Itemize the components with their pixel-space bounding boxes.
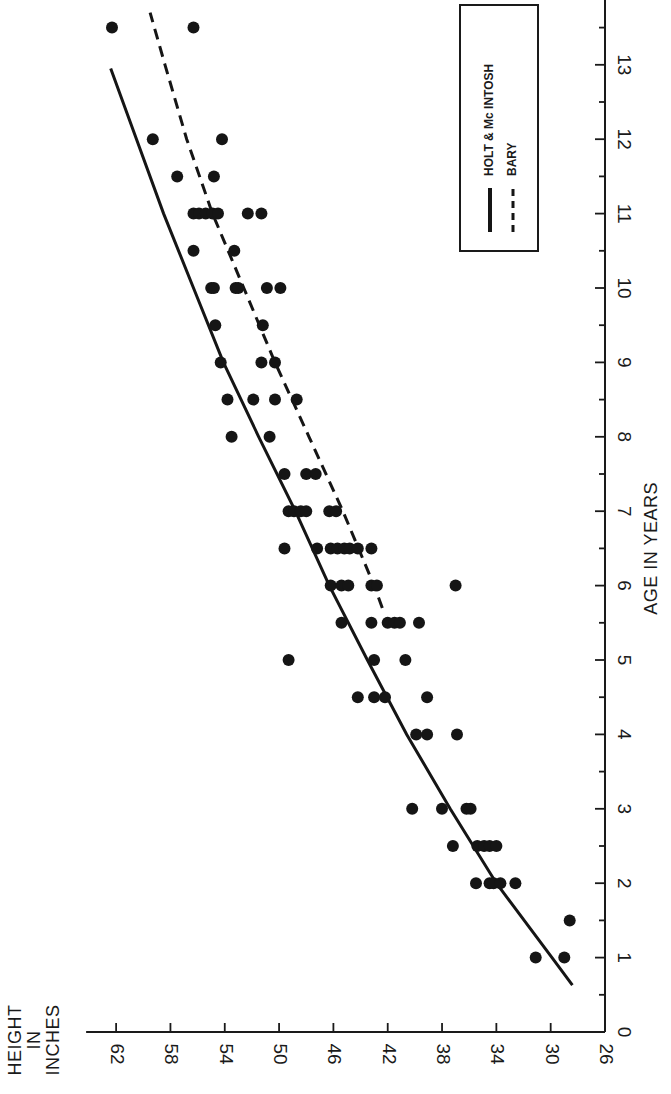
data-point (352, 691, 364, 703)
data-point (342, 580, 354, 592)
data-point (171, 170, 183, 182)
data-point (450, 580, 462, 592)
legend-box (460, 5, 538, 251)
data-point (465, 803, 477, 815)
age-tick-label: 9 (614, 357, 635, 368)
age-tick-label: 10 (614, 277, 635, 298)
data-point (209, 319, 221, 331)
data-point (494, 877, 506, 889)
data-point (365, 542, 377, 554)
age-axis-title: AGE IN YEARS (641, 482, 661, 615)
data-point (352, 542, 364, 554)
height-axis-title: IN (24, 1031, 44, 1050)
growth-chart: 01234567891011121326303438424650545862 H… (0, 0, 671, 1094)
data-point (274, 282, 286, 294)
data-point (530, 952, 542, 964)
data-point (336, 617, 348, 629)
bary-line (150, 13, 382, 608)
height-tick-label: 42 (379, 1043, 400, 1064)
data-point (300, 505, 312, 517)
legend-label: BARY (505, 142, 519, 176)
age-tick-label: 6 (614, 580, 635, 591)
data-point (291, 394, 303, 406)
data-point (208, 170, 220, 182)
data-point (255, 208, 267, 220)
data-point (255, 356, 267, 368)
age-tick-label: 11 (614, 204, 635, 224)
data-point (283, 654, 295, 666)
data-point (371, 580, 383, 592)
data-point (208, 282, 220, 294)
height-tick-label: 58 (161, 1043, 182, 1064)
data-point (368, 691, 380, 703)
data-point (232, 282, 244, 294)
age-tick-label: 13 (614, 54, 635, 75)
height-tick-label: 62 (107, 1043, 128, 1064)
data-point (365, 617, 377, 629)
data-point (447, 840, 459, 852)
data-point (212, 208, 224, 220)
data-point (264, 431, 276, 443)
data-point (228, 245, 240, 257)
data-point (421, 728, 433, 740)
data-point (222, 394, 234, 406)
data-point (215, 356, 227, 368)
data-point (147, 133, 159, 145)
age-tick-label: 12 (614, 129, 635, 150)
height-axis-title: HEIGHT (5, 1004, 25, 1075)
data-point (413, 617, 425, 629)
data-point (188, 22, 200, 34)
data-point (310, 468, 322, 480)
data-point (368, 654, 380, 666)
height-tick-label: 54 (216, 1043, 237, 1065)
axes: 01234567891011121326303438424650545862 (86, 0, 635, 1065)
data-point (269, 394, 281, 406)
data-point (436, 803, 448, 815)
data-point (410, 728, 422, 740)
axis-labels: AGE IN YEARSHEIGHTININCHES (5, 482, 661, 1075)
age-tick-label: 5 (614, 655, 635, 666)
height-tick-label: 38 (433, 1043, 454, 1064)
age-tick-label: 1 (614, 952, 635, 963)
data-point (188, 245, 200, 257)
legend: HOLT & Mc INTOSHBARY (460, 5, 538, 251)
height-axis-title: INCHES (43, 1004, 63, 1075)
data-point (470, 877, 482, 889)
data-point (279, 542, 291, 554)
data-point (216, 133, 228, 145)
data-point (509, 877, 521, 889)
data-point (421, 691, 433, 703)
data-point (257, 319, 269, 331)
data-point (394, 617, 406, 629)
age-tick-label: 8 (614, 432, 635, 443)
height-tick-label: 26 (596, 1043, 617, 1064)
data-point (379, 691, 391, 703)
height-tick-label: 50 (270, 1043, 291, 1064)
data-point (311, 542, 323, 554)
age-tick-label: 2 (614, 878, 635, 889)
data-point (564, 914, 576, 926)
data-point (330, 505, 342, 517)
data-point (106, 22, 118, 34)
age-tick-label: 4 (614, 729, 635, 740)
data-point (247, 394, 259, 406)
data-point (558, 952, 570, 964)
data-point (325, 580, 337, 592)
age-tick-label: 0 (614, 1027, 635, 1038)
data-point (242, 208, 254, 220)
data-point (490, 840, 502, 852)
age-tick-label: 3 (614, 804, 635, 815)
data-point (399, 654, 411, 666)
height-tick-label: 34 (487, 1043, 508, 1065)
data-point (261, 282, 273, 294)
data-point (279, 468, 291, 480)
legend-label: HOLT & Mc INTOSH (482, 64, 496, 176)
data-point (451, 728, 463, 740)
height-tick-label: 46 (324, 1043, 345, 1064)
age-tick-label: 7 (614, 506, 635, 517)
data-point (269, 356, 281, 368)
height-tick-label: 30 (542, 1043, 563, 1064)
data-point (406, 803, 418, 815)
data-point (226, 431, 238, 443)
